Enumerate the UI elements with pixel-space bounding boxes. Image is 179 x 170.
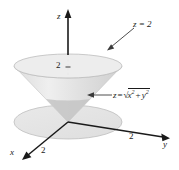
diagram-canvas	[0, 0, 179, 170]
cone-top-rim	[14, 54, 122, 78]
radicand-group: x2+y2	[128, 88, 150, 100]
z-tick-label-2: 2	[56, 61, 61, 70]
x-tick-label-2: 2	[41, 146, 46, 155]
plane-equation-label: z = 2	[133, 20, 152, 29]
y-axis-label: y	[163, 140, 167, 149]
plane-leader-line	[111, 28, 134, 47]
exponent-y: 2	[146, 89, 149, 95]
plus-sign: +	[136, 90, 141, 100]
exponent-x: 2	[132, 89, 135, 95]
x-axis-label: x	[10, 148, 14, 157]
plane-equation-text: z = 2	[133, 19, 152, 29]
cone-equation-label: z=√x2+y2	[113, 88, 150, 100]
cone-diagram: z 2 y 2 x 2 z = 2 z=√x2+y2	[0, 0, 179, 170]
cone-eq-equals: =	[118, 90, 123, 100]
cone-eq-lhs: z	[113, 90, 117, 100]
z-axis-label: z	[57, 12, 61, 21]
y-tick-label-2: 2	[129, 132, 134, 141]
z-axis-arrowhead	[65, 9, 72, 18]
